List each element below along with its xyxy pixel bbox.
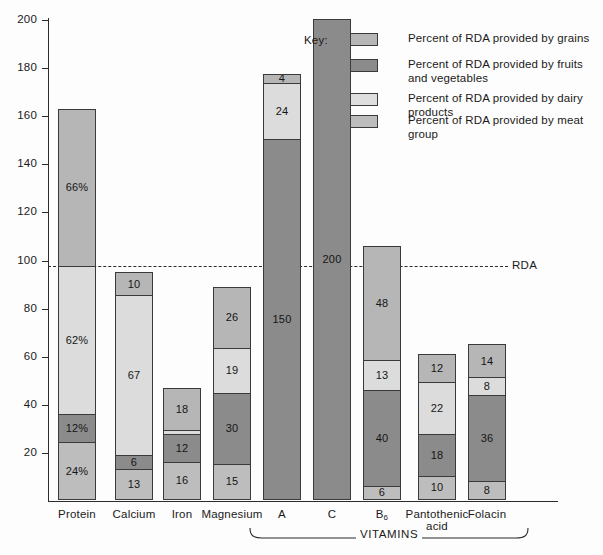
y-axis-tick-label: 140 (17, 157, 37, 169)
bar-segment-value: 12 (431, 363, 444, 374)
bar-segment-value: 6 (131, 457, 137, 468)
rda-stacked-bar-chart: 20406080100120140160180200 RDA 24%12%62%… (0, 0, 603, 555)
bar-segment-grains: 10 (115, 272, 153, 296)
bar-segment-value: 62% (66, 335, 89, 346)
bar-segment-value: 66% (66, 182, 89, 193)
bar-protein[interactable]: 24%12%62%66% (58, 110, 96, 500)
bar-segment-value: 18 (176, 404, 189, 415)
vitamins-bracket-label: VITAMINS (356, 528, 422, 540)
bar-segment-value: 4 (279, 74, 285, 84)
y-axis-tick-label: 60 (24, 350, 37, 362)
legend-swatch-dairy-icon (350, 93, 378, 106)
bar-segment-meat: 13 (115, 469, 153, 500)
bar-segment-grains: 4 (263, 74, 301, 84)
bar-segment-value: 18 (431, 450, 444, 461)
bar-segment-meat: 24% (58, 442, 96, 500)
bar-segment-value: 30 (226, 423, 239, 434)
bar-segment-meat: 8 (468, 481, 506, 500)
bar-segment-meat: 6 (363, 486, 401, 500)
y-axis-tick-label: 180 (17, 61, 37, 73)
legend-swatch-fruits-icon (350, 59, 378, 72)
bar-segment-value: 150 (273, 314, 292, 325)
bar-a[interactable]: 150244 (263, 75, 301, 500)
bar-segment-value: 8 (484, 381, 490, 392)
bar-segment-value: 15 (226, 476, 239, 487)
legend-label: Percent of RDA provided by meat group (408, 114, 600, 141)
bar-segment-fruits: 200 (313, 19, 351, 500)
bar-segment-value: 48 (376, 298, 389, 309)
bar-segment-value: 14 (481, 356, 494, 367)
bar-calcium[interactable]: 1366710 (115, 273, 153, 500)
y-axis-tick-label: 100 (17, 254, 37, 266)
bar-segment-dairy: 67 (115, 295, 153, 456)
bar-iron[interactable]: 161218 (163, 389, 201, 500)
bar-segment-value: 13 (128, 479, 141, 490)
bar-segment-grains: 14 (468, 344, 506, 378)
bar-segment-value: 22 (431, 403, 444, 414)
y-axis-tick-label: 200 (17, 13, 37, 25)
y-axis-tick-label: 20 (24, 446, 37, 458)
bar-folacin[interactable]: 836814 (468, 345, 506, 500)
bar-segment-dairy: 8 (468, 377, 506, 396)
bar-segment-fruits: 40 (363, 390, 401, 486)
bar-segment-dairy: 62% (58, 266, 96, 415)
bar-segment-dairy: 13 (363, 360, 401, 391)
bar-segment-fruits: 30 (213, 393, 251, 465)
x-axis-label-text: B6 (376, 508, 389, 520)
bar-segment-value: 24% (66, 466, 89, 477)
y-axis-tick-label: 80 (24, 302, 37, 314)
legend-item-fruits[interactable]: Percent of RDA provided by fruits and ve… (350, 58, 583, 85)
legend-swatch-meat-icon (350, 115, 378, 128)
bar-segment-value: 67 (128, 370, 141, 381)
bar-segment-value: 36 (481, 433, 494, 444)
bar-segment-value: 10 (431, 482, 444, 493)
bar-segment-grains: 18 (163, 388, 201, 431)
y-axis-tick-label: 40 (24, 398, 37, 410)
legend-label: Percent of RDA provided by grains (408, 32, 589, 46)
bar-segment-fruits: 6 (115, 455, 153, 469)
bar-magnesium[interactable]: 15301926 (213, 288, 251, 500)
bar-segment-fruits: 36 (468, 395, 506, 482)
bar-segment-value: 6 (379, 487, 385, 498)
bar-segment-grains: 12 (418, 354, 456, 383)
bar-segment-dairy: 24 (263, 83, 301, 141)
bar-segment-value: 10 (128, 279, 141, 290)
bar-segment-value: 26 (226, 312, 239, 323)
bar-segment-value: 19 (226, 365, 239, 376)
bar-segment-grains: 26 (213, 287, 251, 350)
legend-item-meat[interactable]: Percent of RDA provided by meat group (350, 114, 600, 141)
bar-segment-grains: 66% (58, 109, 96, 268)
bar-segment-value: 12 (176, 443, 189, 454)
bar-segment-value: 200 (323, 254, 342, 265)
bar-segment-fruits: 150 (263, 139, 301, 500)
bar-segment-dairy: 19 (213, 348, 251, 394)
bar-segment-value: 16 (176, 475, 189, 486)
bar-pantothenic-acid[interactable]: 10182212 (418, 355, 456, 500)
bar-segment-value: 40 (376, 433, 389, 444)
bar-segment-value: 12% (66, 423, 89, 434)
legend-label: Percent of RDA provided by fruits and ve… (408, 58, 583, 85)
bar-segment-meat: 16 (163, 462, 201, 500)
y-axis-tick-label: 160 (17, 109, 37, 121)
legend-swatch-grains-icon (350, 33, 378, 46)
bar-c[interactable]: 200 (313, 20, 351, 500)
legend-title: Key: (304, 34, 328, 46)
bar-segment-value: 24 (276, 106, 289, 117)
bar-segment-value: 13 (376, 370, 389, 381)
x-axis-label-folacin: Folacin (444, 508, 530, 520)
bar-b[interactable]: 6401348 (363, 247, 401, 500)
bar-segment-grains: 48 (363, 246, 401, 361)
x-axis-line (48, 501, 558, 502)
bar-segment-fruits: 12 (163, 434, 201, 463)
bar-segment-fruits: 18 (418, 434, 456, 477)
bar-segment-dairy: 22 (418, 382, 456, 435)
bar-segment-meat: 10 (418, 476, 456, 500)
bar-segment-value: 8 (484, 485, 490, 496)
legend-item-grains[interactable]: Percent of RDA provided by grains (350, 32, 589, 46)
bar-segment-meat: 15 (213, 464, 251, 500)
y-axis-tick-label: 120 (17, 205, 37, 217)
bar-segment-fruits: 12% (58, 414, 96, 443)
vitamins-bracket: VITAMINS (248, 527, 530, 549)
